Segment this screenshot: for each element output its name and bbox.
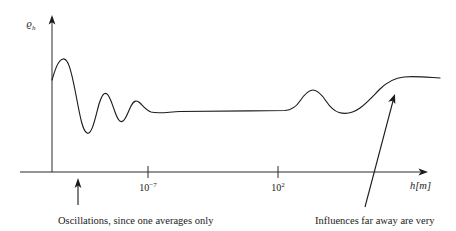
x-axis-label: h[m] xyxy=(410,180,431,191)
left-annotation-arrow xyxy=(75,178,82,205)
y-axis-label-subscript: h xyxy=(32,24,36,32)
x-tick-label-2: 102 xyxy=(271,181,285,193)
tick-1-exponent: −7 xyxy=(149,181,157,189)
diagonal-arrow-head xyxy=(388,94,395,104)
y-axis xyxy=(49,15,56,172)
data-curve xyxy=(52,59,440,133)
x-tick-label-1: 10−7 xyxy=(139,181,157,193)
left-annotation-text: Oscillations, since one averages only xyxy=(58,215,214,226)
right-annotation-text: Influences far away are very xyxy=(315,215,435,226)
diagonal-arrow-shaft xyxy=(365,101,393,207)
tick-2-mantissa: 10 xyxy=(271,182,281,193)
tick-2-exponent: 2 xyxy=(281,181,285,189)
tick-1-mantissa: 10 xyxy=(139,182,149,193)
figure-container: ϱh h[m] 10−7 102 Oscillations, since one… xyxy=(0,0,456,231)
x-axis xyxy=(20,166,428,178)
homogenization-plot: ϱh h[m] 10−7 102 Oscillations, since one… xyxy=(0,0,456,231)
right-annotation-arrow xyxy=(365,94,395,207)
x-axis-label-unit: [m] xyxy=(415,180,431,191)
y-axis-label: ϱh xyxy=(27,18,36,32)
